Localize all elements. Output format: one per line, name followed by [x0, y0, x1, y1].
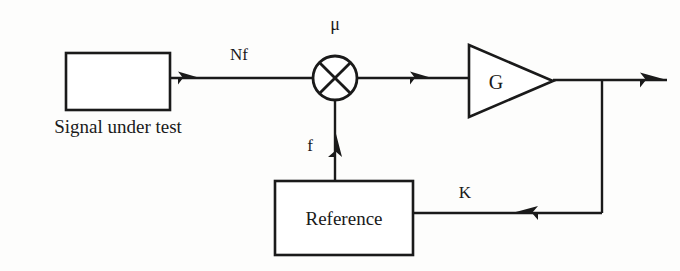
block-diagram-figure: Nf μ f K G Reference Signal under test [0, 0, 680, 271]
label-amplifier-gain: G [489, 71, 503, 93]
label-reference-frequency: f [307, 136, 313, 155]
arrowhead-source-to-mixer [178, 72, 200, 85]
arrowhead-feedback [512, 206, 538, 220]
signal-source-block [66, 53, 170, 110]
amplifier-triangle [469, 45, 553, 117]
label-mixer-output: μ [330, 14, 340, 34]
arrowhead-mixer-to-amplifier [410, 72, 432, 85]
label-signal-under-test: Signal under test [54, 116, 182, 137]
arrowhead-output [640, 73, 667, 88]
arrowhead-reference-to-mixer [328, 130, 342, 157]
label-input-signal: Nf [230, 45, 248, 64]
label-feedback-gain: K [459, 183, 472, 202]
label-reference-block: Reference [306, 208, 383, 229]
block-diagram-canvas: Nf μ f K G Reference Signal under test [0, 0, 680, 271]
